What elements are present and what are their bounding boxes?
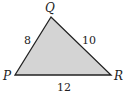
side-label-pq: 8	[24, 34, 31, 47]
vertex-label-p: P	[2, 69, 12, 83]
triangle-diagram: Q P R 8 10 12	[0, 0, 128, 99]
side-label-pr: 12	[57, 81, 71, 94]
vertex-label-r: R	[113, 69, 123, 83]
vertex-label-q: Q	[45, 1, 55, 15]
side-label-qr: 10	[82, 34, 96, 47]
